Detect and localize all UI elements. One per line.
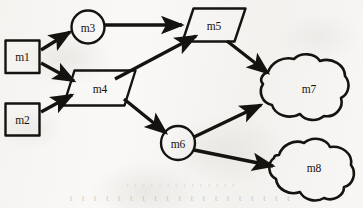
node-m5-label: m5 xyxy=(207,20,222,32)
node-m6-label: m6 xyxy=(171,138,186,150)
edge-m6-m7 xyxy=(194,105,261,137)
node-m6[interactable]: m6 xyxy=(161,126,195,160)
edge-m5-m7 xyxy=(227,41,268,73)
edge-m6-m8 xyxy=(194,150,273,166)
edge-m1-m3 xyxy=(41,32,70,50)
node-m2[interactable]: m2 xyxy=(6,104,40,136)
node-m1-label: m1 xyxy=(15,51,30,63)
node-m8-label: m8 xyxy=(307,162,322,174)
edge-m4-m6 xyxy=(124,99,166,133)
edge-layer xyxy=(41,25,273,166)
node-m3-label: m3 xyxy=(81,22,96,34)
node-m7-label: m7 xyxy=(302,83,317,95)
node-m8[interactable]: m8 xyxy=(269,139,354,201)
node-m4-label: m4 xyxy=(93,83,108,95)
diagram-page: m1 m2 m3 m4 m5 xyxy=(0,0,363,208)
node-m2-label: m2 xyxy=(15,114,30,126)
node-m1[interactable]: m1 xyxy=(6,41,40,74)
edge-m2-m4 xyxy=(41,95,72,112)
node-m3[interactable]: m3 xyxy=(72,11,105,44)
node-m7[interactable]: m7 xyxy=(261,54,349,120)
flowchart-diagram: m1 m2 m3 m4 m5 xyxy=(0,0,363,208)
edge-m1-m4 xyxy=(41,63,74,81)
